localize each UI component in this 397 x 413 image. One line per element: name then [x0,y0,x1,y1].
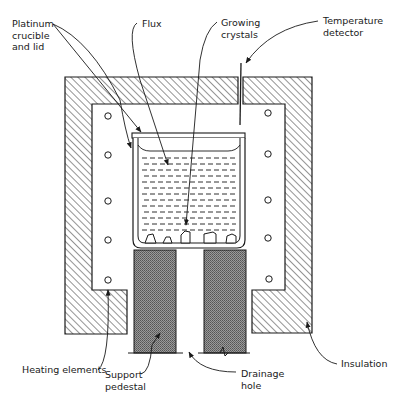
label-flux: Flux [142,18,162,30]
heating-element-icon [265,197,271,203]
support-pedestal [128,250,250,356]
heating-element-icon [265,110,271,116]
heating-element-icon [105,237,111,243]
heating-element-icon [265,235,271,241]
label-heating-elements: Heating elements [22,364,106,376]
label-platinum-crucible: Platinum crucible and lid [12,18,54,53]
temperature-detector [240,63,241,125]
heating-element-icon [105,277,111,283]
heating-element-icon [105,198,111,204]
heating-element-icon [266,276,272,282]
heating-element-icon [265,151,271,157]
heating-element-icon [105,152,111,158]
crucible-lid [132,133,245,138]
furnace-diagram [0,0,397,413]
label-drainage-hole: Drainage hole [241,368,284,391]
label-temperature-detector: Temperature detector [323,15,383,38]
label-insulation: Insulation [341,358,387,370]
label-support-pedestal: Support pedestal [105,369,146,392]
label-growing-crystals: Growing crystals [221,17,260,40]
heating-element-icon [105,113,111,119]
